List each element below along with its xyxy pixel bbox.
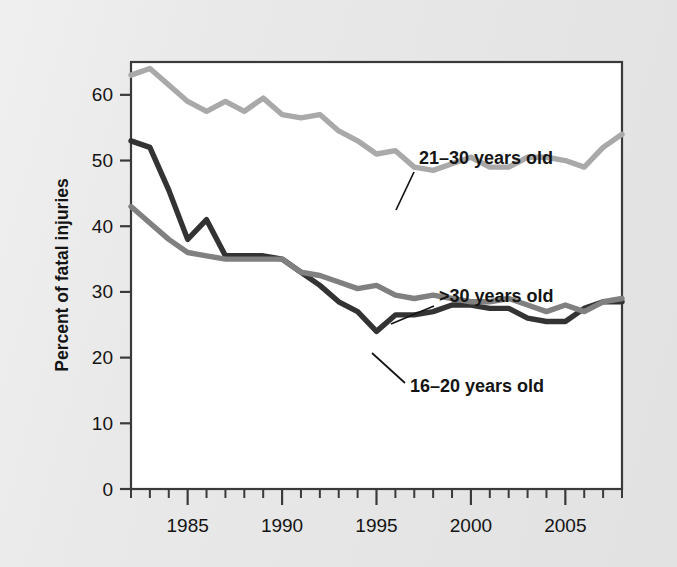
y-axis-title: Percent of fatal injuries	[52, 178, 72, 372]
y-axis-ticks	[120, 95, 131, 489]
x-tick-label-1995: 1995	[355, 515, 397, 536]
y-tick-label-40: 40	[92, 216, 113, 237]
y-tick-label-30: 30	[92, 281, 113, 302]
y-tick-label-20: 20	[92, 347, 113, 368]
annotation-over-30-text: >30 years old	[439, 286, 554, 306]
x-axis-tick-labels: 19851990199520002005	[167, 515, 587, 536]
y-tick-label-50: 50	[92, 150, 113, 171]
y-tick-label-10: 10	[92, 413, 113, 434]
fatal-injuries-line-chart: 0102030405060 19851990199520002005 21–30…	[0, 0, 677, 567]
figure-container: 0102030405060 19851990199520002005 21–30…	[0, 0, 677, 567]
y-tick-label-60: 60	[92, 84, 113, 105]
annotation-16-20-text: 16–20 years old	[410, 376, 544, 396]
x-tick-label-1990: 1990	[261, 515, 303, 536]
y-axis-tick-labels: 0102030405060	[92, 84, 113, 499]
x-tick-label-2005: 2005	[544, 515, 586, 536]
annotation-21-30-text: 21–30 years old	[419, 148, 553, 168]
plot-area-background	[131, 62, 622, 489]
y-tick-label-0: 0	[102, 479, 113, 500]
x-tick-label-2000: 2000	[450, 515, 492, 536]
x-tick-label-1985: 1985	[167, 515, 209, 536]
